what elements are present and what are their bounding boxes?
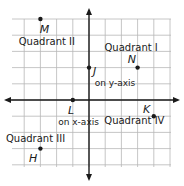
point-label: M <box>40 23 50 36</box>
point-label: J <box>91 65 96 78</box>
point-marker <box>38 146 42 150</box>
point-marker <box>38 17 42 21</box>
point-note: on x-axis <box>58 117 99 127</box>
point-marker <box>135 65 139 69</box>
quadrant-label-q2: Quadrant II <box>19 36 75 47</box>
coordinate-plane: Quadrant IIQuadrant IQuadrant IVQuadrant… <box>0 0 184 186</box>
point-marker <box>152 114 156 118</box>
quadrant-label-q3: Quadrant III <box>6 133 65 144</box>
y-axis-arrow-up-icon <box>86 8 92 15</box>
point-label: L <box>68 104 74 117</box>
point-m: M <box>38 17 50 36</box>
quadrant-labels: Quadrant IIQuadrant IQuadrant IVQuadrant… <box>6 36 165 144</box>
point-j: Jon y-axis <box>87 65 136 88</box>
point-marker <box>87 65 91 69</box>
point-marker <box>71 98 75 102</box>
point-l: Lon x-axis <box>58 98 99 127</box>
point-label: K <box>143 103 151 116</box>
x-axis-arrow-left-icon <box>4 97 11 103</box>
point-note: on y-axis <box>95 78 136 88</box>
point-label: N <box>128 53 136 66</box>
point-label: H <box>29 152 37 165</box>
y-axis-arrow-down-icon <box>86 174 92 181</box>
x-axis-arrow-right-icon <box>173 97 180 103</box>
